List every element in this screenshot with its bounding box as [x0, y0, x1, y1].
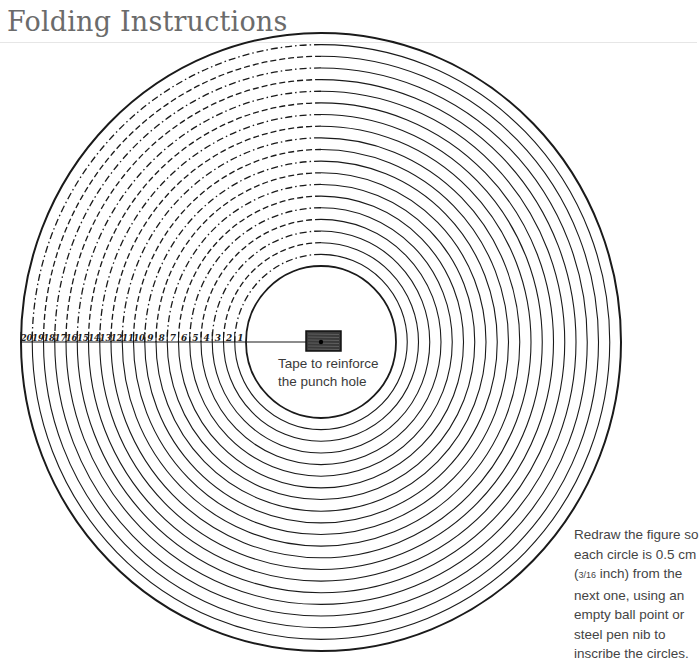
note-line-2: each circle is 0.5 cm: [574, 545, 699, 565]
scale-label: 8: [158, 333, 165, 343]
radial-scale: 2019181716151413121110987654321: [20, 332, 321, 343]
tape-patch: [306, 331, 341, 351]
tape-caption-line-2: the punch hole: [278, 373, 398, 391]
ring-dashed-arc: [66, 80, 321, 342]
scale-label: 7: [170, 333, 177, 343]
scale-label: 18: [43, 333, 55, 343]
scale-label: 17: [54, 333, 66, 343]
note-line-4: next one, using an: [574, 586, 699, 606]
punch-hole-dot: [319, 340, 323, 344]
scale-label: 20: [20, 333, 33, 343]
scale-label: 10: [133, 333, 145, 343]
scale-label: 6: [181, 333, 188, 343]
ring-dashed-arc: [100, 115, 321, 342]
ring-dashed-arc: [145, 161, 321, 342]
scale-label: 13: [99, 333, 111, 343]
scale-label: 5: [192, 333, 198, 343]
scale-label: 3: [215, 333, 221, 343]
note-line-7: inscribe the circles.: [574, 644, 699, 661]
note-line-3-rest: inch) from the: [596, 566, 682, 581]
ring-dashed-arc: [134, 150, 322, 343]
scale-label: 1: [237, 333, 243, 343]
ring-dashed-arc: [167, 184, 321, 342]
scale-label: 14: [88, 333, 100, 343]
note-line-1: Redraw the figure so: [574, 525, 699, 545]
note-fraction: 3/16: [579, 570, 597, 580]
scale-label: 16: [66, 333, 78, 343]
note-line-5: empty ball point or: [574, 605, 699, 625]
instruction-note: Redraw the figure so each circle is 0.5 …: [574, 525, 699, 661]
ring-dashed-arc: [224, 243, 322, 342]
scale-label: 15: [77, 333, 89, 343]
ring-dashed-arc: [32, 45, 321, 342]
ring-dashed-arc: [122, 138, 321, 342]
scale-label: 19: [32, 333, 44, 343]
note-line-3: (3/16 inch) from the: [574, 564, 699, 586]
ring-dashed-arc: [190, 208, 321, 342]
tape-caption: Tape to reinforce the punch hole: [278, 355, 398, 391]
ring-dashed-arc: [201, 219, 321, 342]
ring-dashed-arc: [111, 126, 321, 342]
ring-dashed-arc: [212, 231, 321, 342]
tape-caption-line-1: Tape to reinforce: [278, 355, 398, 373]
ring-dashed-arc: [44, 56, 322, 342]
ring-dashed-arc: [55, 68, 321, 342]
scale-label: 9: [147, 333, 154, 343]
scale-label: 11: [122, 333, 134, 343]
scale-label: 12: [111, 333, 123, 343]
scale-label: 4: [203, 333, 209, 343]
scale-label: 2: [225, 333, 232, 343]
note-line-6: steel pen nib to: [574, 625, 699, 645]
